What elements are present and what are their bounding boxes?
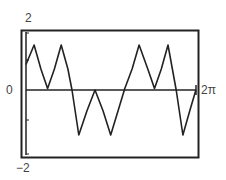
x-origin-label: 0 [6, 84, 13, 96]
x-max-label: 2π [201, 84, 216, 96]
y-max-label: 2 [25, 12, 32, 24]
plot-frame [22, 31, 199, 158]
chart-canvas [0, 0, 226, 180]
y-min-label: −2 [16, 162, 30, 174]
